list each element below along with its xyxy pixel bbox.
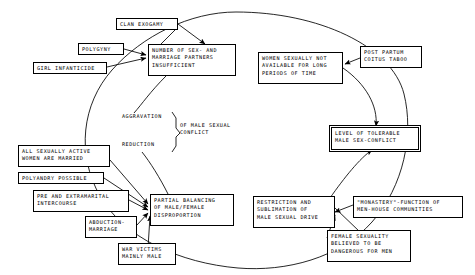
node-all-sexually-active-women-are-married[interactable]: ALL SEXUALLY ACTIVE WOMEN ARE MARRIED <box>18 145 110 167</box>
label-aggravation: AGGRAVATION <box>122 113 184 120</box>
node-pre-and-extramarital-intercourse[interactable]: PRE AND EXTRAMARITAL INTERCOURSE <box>33 190 129 212</box>
node-girl-infanticide[interactable]: GIRL INFANTICIDE <box>33 62 107 74</box>
node-polygyny[interactable]: POLYGYNY <box>78 43 124 55</box>
edge-women-unavailable-to-level <box>343 68 376 126</box>
node-post-partum-coitus-taboo[interactable]: POST PARTUM COITUS TABOO <box>360 46 422 68</box>
node-level-of-tolerable-male-sex-conflict[interactable]: LEVEL OF TOLERABLE MALE SEX-CONFLICT <box>331 127 419 150</box>
node-clan-exogamy[interactable]: CLAN EXOGAMY <box>116 18 178 30</box>
node-polyandry-possible[interactable]: POLYANDRY POSSIBLE <box>18 172 104 184</box>
edge-polygyny <box>124 49 146 55</box>
edge-partial-balancing-up <box>142 152 168 194</box>
edge-post-partum <box>345 58 360 64</box>
node-abduction-marriage[interactable]: ABDUCTION- MARRIAGE <box>85 216 137 238</box>
node-women-sexually-not-available[interactable]: WOMEN SEXUALLY NOT AVAILABLE FOR LONG PE… <box>258 52 343 84</box>
node-number-of-partners[interactable]: NUMBER OF SEX- AND MARRIAGE PARTNERS INS… <box>148 44 236 76</box>
node-monastery-function[interactable]: "MONASTERY"-FUNCTION OF MEN-HOUSE COMMUN… <box>353 196 463 218</box>
node-partial-balancing[interactable]: PARTIAL BALANCING OF MALE/FEMALE DISPROP… <box>150 194 234 226</box>
edge-abduction <box>137 213 148 225</box>
node-female-sexuality-dangerous[interactable]: FEMALE SEXUALITY BELIEVED TO BE DANGEROU… <box>327 230 411 262</box>
label-reduction: REDUCTION <box>122 141 178 148</box>
label-of-male-sexual-conflict: OF MALE SEXUAL CONFLICT <box>180 122 252 137</box>
node-war-victims-mainly-male[interactable]: WAR VICTIMS MAINLY MALE <box>118 243 176 265</box>
node-restriction-and-sublimation[interactable]: RESTRICTION AND SUBLIMATION OF MALE SEXU… <box>253 196 335 228</box>
edge-clan-exogamy <box>178 24 205 44</box>
edge-girl-infanticide <box>107 58 146 67</box>
edge-number-partners-down <box>134 76 166 113</box>
edge-restriction-to-level <box>330 150 372 198</box>
